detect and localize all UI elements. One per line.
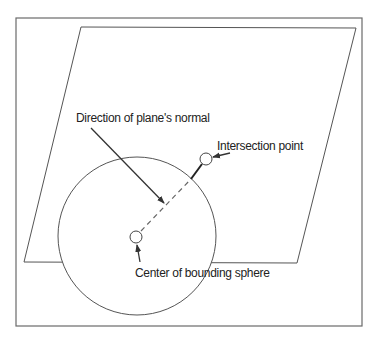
intersection-point-label: Intersection point (217, 139, 304, 153)
intersection-point-arrow (213, 153, 230, 157)
bounding-sphere-plane-diagram: Direction of plane's normal Intersection… (0, 0, 378, 338)
normal-direction-label: Direction of plane's normal (76, 111, 210, 125)
normal-solid-segment (191, 164, 202, 179)
intersection-point-marker (200, 153, 212, 165)
center-point-marker (130, 231, 142, 243)
center-point-label: Center of bounding sphere (135, 266, 270, 280)
